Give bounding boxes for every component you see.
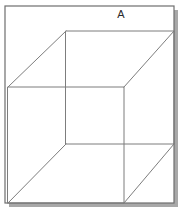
figure-panel: A [0,0,189,218]
figure-label: A [117,8,125,20]
cube-diagram: A [0,0,189,218]
